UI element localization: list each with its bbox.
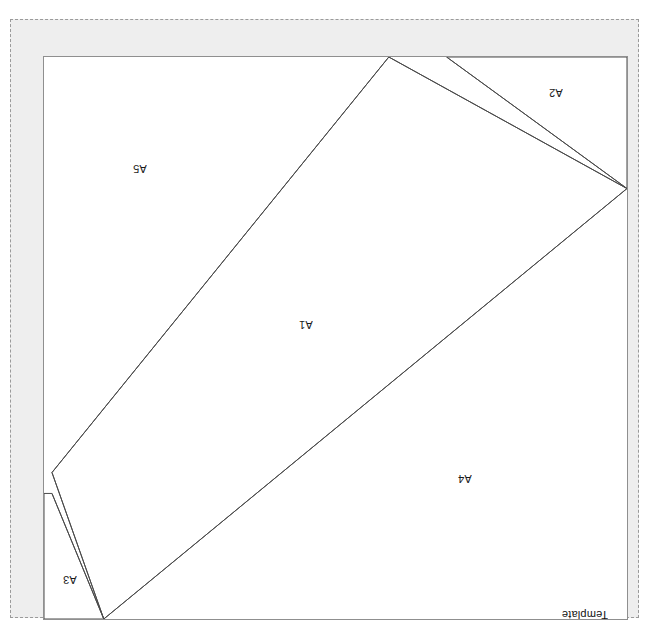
brand-logo-block: REVOLUTION Template [514,595,628,620]
piece-label-a4: A4 [458,473,472,485]
piece-label-a3: A3 [63,574,77,586]
piece-label-a2: A2 [549,87,563,99]
template-art-panel: A1 A2 A3 A4 A5 REVOLUTION Template [43,56,628,620]
scan-header-text [560,0,645,12]
brand-subtitle: Template [514,609,608,620]
dashed-cut-boundary: A1 A2 A3 A4 A5 REVOLUTION Template [10,19,639,618]
piece-label-a1: A1 [299,319,313,331]
piece-label-a5: A5 [133,163,147,175]
pattern-cut-lines-svg [44,57,627,619]
template-page: A1 A2 A3 A4 A5 REVOLUTION Template [0,0,649,629]
